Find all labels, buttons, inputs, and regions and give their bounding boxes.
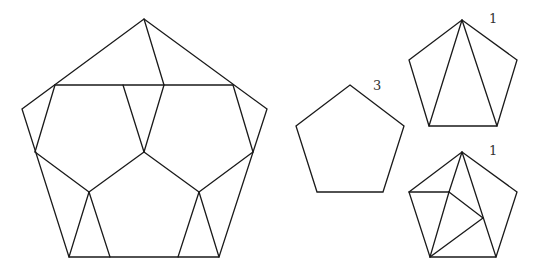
dissection-segment xyxy=(462,20,497,126)
dissection-segment xyxy=(89,152,144,192)
dissection-segment xyxy=(178,192,199,257)
pentagon-dissection-diagram: 3 1 1 xyxy=(0,0,536,276)
dissection-segment xyxy=(199,152,253,192)
dissection-segment xyxy=(35,152,89,192)
dissection-segment xyxy=(144,19,164,85)
pentagon-outline xyxy=(409,20,517,126)
subdivided-pentagon xyxy=(409,152,517,257)
dissection-segment xyxy=(430,218,483,257)
dissection-segment xyxy=(123,85,144,152)
pentagon-outline xyxy=(22,19,267,257)
dissection-segment xyxy=(233,85,253,152)
dissection-segment xyxy=(89,192,110,257)
dissection-segment xyxy=(449,192,483,218)
plain-pentagon xyxy=(296,85,404,192)
dissection-segment xyxy=(69,192,89,257)
dissection-segment xyxy=(429,20,462,126)
dissection-segment xyxy=(144,85,164,152)
pentagon-outline xyxy=(409,152,517,257)
dissection-segment xyxy=(144,152,199,192)
count-label-fan-pentagon: 1 xyxy=(489,11,497,26)
dissection-segment xyxy=(462,152,496,257)
large-dissected-pentagon xyxy=(22,19,267,257)
pentagon-outline xyxy=(296,85,404,192)
dissection-segment xyxy=(35,85,55,152)
count-label-plain-pentagon: 3 xyxy=(373,78,381,93)
dissection-segment xyxy=(430,192,449,257)
dissection-segment xyxy=(199,192,219,257)
count-label-subdivided-pentagon: 1 xyxy=(489,143,497,158)
fan-triangulated-pentagon xyxy=(409,20,517,126)
dissection-segment xyxy=(449,152,462,192)
